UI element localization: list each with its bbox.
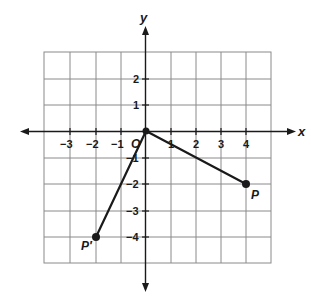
y-tick-label: −2 <box>126 178 139 190</box>
y-axis-label: y <box>139 10 148 25</box>
y-axis-arrow-down-icon <box>142 283 149 292</box>
y-tick-label: −4 <box>126 231 139 243</box>
point-o <box>143 128 150 135</box>
x-tick-labels: −3 −2 −1 1 2 3 4 <box>60 138 250 150</box>
coordinate-plane: x y −3 −2 −1 1 2 3 4 2 1 −1 −2 −3 −4 O P… <box>0 0 311 303</box>
x-tick-label: 2 <box>193 138 199 150</box>
point-label-p: P <box>251 188 260 202</box>
x-tick-label: 4 <box>243 138 250 150</box>
y-tick-label: 2 <box>133 73 139 85</box>
x-axis-label: x <box>297 124 306 139</box>
y-tick-label: −3 <box>126 205 139 217</box>
x-tick-label: 3 <box>218 138 224 150</box>
point-label-p-prime: P′ <box>81 239 93 253</box>
x-axis-arrow-right-icon <box>287 128 296 135</box>
x-tick-label: −1 <box>111 138 124 150</box>
x-tick-label: −3 <box>60 138 73 150</box>
y-axis <box>142 26 149 292</box>
y-tick-label: 1 <box>133 99 139 111</box>
point-p <box>242 180 250 188</box>
y-axis-arrow-up-icon <box>142 26 149 35</box>
point-p-prime <box>92 233 100 241</box>
grid <box>44 52 271 263</box>
x-axis-arrow-left-icon <box>20 128 29 135</box>
x-tick-label: −2 <box>86 138 99 150</box>
x-axis <box>20 128 296 135</box>
point-label-o: O <box>131 137 141 151</box>
